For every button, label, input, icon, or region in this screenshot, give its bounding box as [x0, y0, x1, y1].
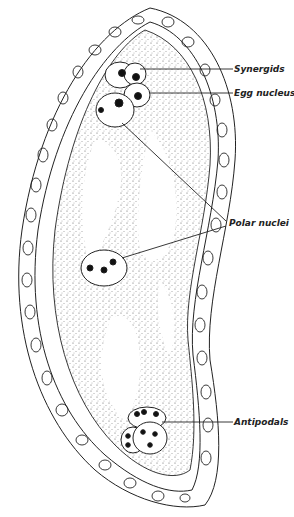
central-polar-nuclei: [81, 250, 127, 286]
label-polar-nuclei: Polar nuclei: [229, 218, 289, 228]
label-synergids: Synergids: [234, 64, 285, 74]
label-egg-nucleus: Egg nucleus: [234, 88, 294, 98]
upper-polar-nucleus: [96, 93, 134, 127]
label-antipodals: Antipodals: [234, 417, 288, 427]
embryo-sac-diagram: [0, 0, 294, 517]
